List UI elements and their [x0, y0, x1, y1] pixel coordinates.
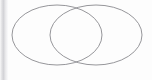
venn-diagram-canvas [0, 0, 152, 80]
venn-diagram-surface [0, 0, 152, 80]
diagram-background [0, 0, 152, 80]
